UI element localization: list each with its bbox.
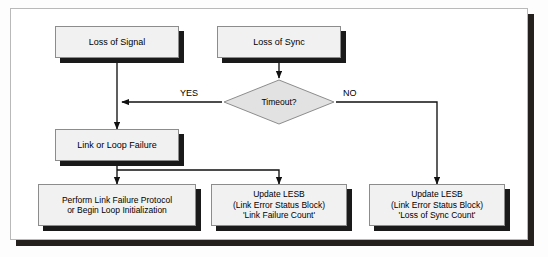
edge-label-no: NO (343, 88, 357, 98)
node-link-or-loop-failure[interactable]: Link or Loop Failure (55, 129, 179, 161)
node-perform-link-failure[interactable]: Perform Link Failure Protocol or Begin L… (38, 184, 196, 226)
node-loss-of-signal-label: Loss of Signal (55, 26, 179, 58)
node-timeout-decision[interactable]: Timeout? (223, 79, 335, 125)
node-update-lesb-link-failure-label: Update LESB (Link Error Status Block) 'L… (211, 184, 347, 226)
edge-label-yes: YES (180, 88, 198, 98)
node-update-lesb-loss-of-sync-label: Update LESB (Link Error Status Block) 'L… (369, 184, 505, 226)
node-timeout-label: Timeout? (223, 79, 335, 125)
flowchart-diagram: Loss of Signal Loss of Sync Timeout? Lin… (0, 0, 548, 257)
node-loss-of-sync-label: Loss of Sync (217, 26, 341, 58)
node-link-or-loop-failure-label: Link or Loop Failure (55, 129, 179, 161)
node-update-lesb-loss-of-sync[interactable]: Update LESB (Link Error Status Block) 'L… (369, 184, 505, 226)
node-loss-of-sync[interactable]: Loss of Sync (217, 26, 341, 58)
node-perform-link-failure-label: Perform Link Failure Protocol or Begin L… (38, 184, 196, 226)
node-loss-of-signal[interactable]: Loss of Signal (55, 26, 179, 58)
node-update-lesb-link-failure[interactable]: Update LESB (Link Error Status Block) 'L… (211, 184, 347, 226)
